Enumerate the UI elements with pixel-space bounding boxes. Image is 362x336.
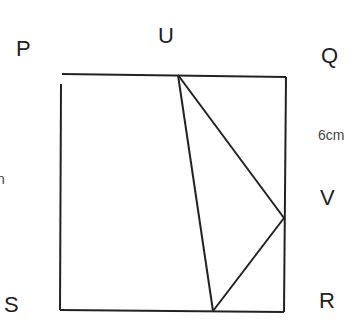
vertex-label-u: U bbox=[158, 25, 174, 47]
vertex-label-p: P bbox=[16, 38, 31, 60]
edge-sp bbox=[60, 84, 61, 310]
segment-vw bbox=[213, 218, 284, 311]
vertex-label-r: R bbox=[319, 290, 335, 312]
measurement-label-6cm: 6cm bbox=[318, 128, 344, 142]
edge-rs bbox=[60, 310, 284, 312]
segment-uw bbox=[178, 75, 213, 311]
segment-uv bbox=[178, 75, 284, 218]
geometry-figure bbox=[0, 0, 362, 336]
edge-qr bbox=[284, 77, 286, 312]
vertex-label-v: V bbox=[320, 187, 335, 209]
vertex-label-s: S bbox=[4, 294, 19, 316]
vertex-label-q: Q bbox=[321, 45, 338, 67]
edge-pq bbox=[62, 74, 286, 77]
measurement-label-left-partial: n bbox=[0, 172, 5, 186]
diagram-canvas: P U Q 6cm V S R n bbox=[0, 0, 362, 336]
